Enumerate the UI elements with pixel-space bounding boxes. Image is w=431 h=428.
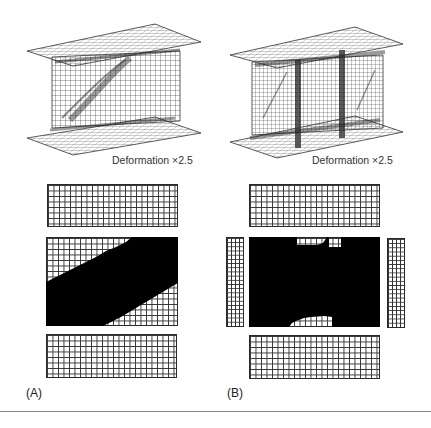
panel-label-a: (A) bbox=[26, 386, 42, 400]
deformation-caption-a: Deformation ×2.5 bbox=[112, 154, 193, 166]
bottom-flange-mesh-b bbox=[249, 335, 380, 379]
bottom-divider bbox=[0, 411, 431, 412]
bottom-flange-mesh-a bbox=[46, 334, 177, 378]
deformation-caption-b: Deformation ×2.5 bbox=[312, 154, 393, 166]
girder-3d-b bbox=[215, 0, 431, 165]
yield-region-b bbox=[249, 237, 380, 327]
top-flange-mesh-a bbox=[47, 184, 178, 227]
web-mesh-a bbox=[46, 237, 178, 326]
left-stiffener-mesh-b bbox=[226, 237, 244, 327]
top-flange-mesh-b bbox=[249, 184, 380, 227]
panel-label-b: (B) bbox=[227, 386, 243, 400]
girder-3d-a bbox=[0, 0, 215, 165]
right-stiffener-mesh-b bbox=[387, 238, 405, 328]
web-mesh-b bbox=[249, 237, 380, 327]
yield-band-a bbox=[46, 237, 178, 326]
